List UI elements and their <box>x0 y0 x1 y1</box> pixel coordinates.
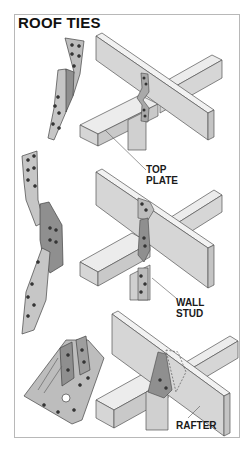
panel-2-lumber <box>80 169 222 300</box>
label-top-plate: TOP PLATE <box>146 164 178 186</box>
twisted-strap-tie-detail <box>48 38 84 140</box>
wall-stud-leader-line <box>152 278 176 298</box>
label-top-plate-line1: TOP <box>146 164 178 175</box>
rafter-clip-detail <box>24 336 104 424</box>
label-rafter: RAFTER <box>176 420 217 431</box>
label-wall-stud: WALL STUD <box>176 297 204 319</box>
panel-1-lumber <box>80 33 222 150</box>
label-top-plate-line2: PLATE <box>146 175 178 186</box>
label-wall-stud-line1: WALL <box>176 297 204 308</box>
roof-ties-illustration <box>0 0 249 450</box>
page-title: ROOF TIES <box>18 14 101 31</box>
hurricane-tie-detail <box>22 151 63 334</box>
hurricane-tie-installed <box>138 198 154 300</box>
label-wall-stud-line2: STUD <box>176 308 204 319</box>
